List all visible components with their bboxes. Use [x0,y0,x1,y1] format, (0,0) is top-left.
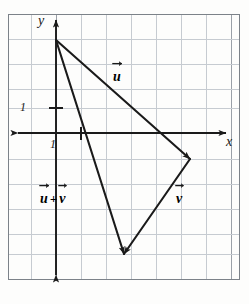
vector-diagram-canvas [0,0,249,304]
resultant-u-glyph: u [40,191,48,207]
x-axis-label: x [226,135,232,149]
vector-diagram: y x 1 1 u v u + [0,0,249,304]
vector-v-overarrow-group: v [176,188,182,207]
resultant-u-overarrow-group: u [40,188,48,207]
y-axis-tick-label: 1 [20,101,26,113]
vector-u-plus-v-label: u + v [40,188,65,207]
y-axis-label: y [38,14,44,28]
vector-v-label: v [176,188,182,207]
vector-v-glyph: v [176,191,182,207]
paper-background [0,0,249,304]
resultant-v-glyph: v [59,191,65,207]
plus-operator: + [48,191,59,207]
vector-u-overarrow-group: u [113,66,121,85]
x-axis-tick-label: 1 [50,138,56,150]
vector-u-label: u [113,66,121,85]
vector-u-glyph: u [113,69,121,85]
resultant-v-overarrow-group: v [59,188,65,207]
